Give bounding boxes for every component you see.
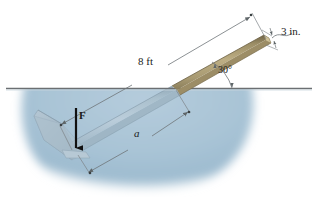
rod-wood-top	[172, 35, 269, 90]
label-force-F: F	[79, 110, 86, 121]
ext-line-8ft-upper	[252, 13, 266, 39]
thickness-arrow-upper	[270, 28, 272, 35]
label-length-8ft: 8 ft	[138, 56, 153, 67]
label-angle-30deg: 30°	[218, 65, 232, 75]
origin-dot-a-lower	[89, 172, 92, 175]
origin-dot-a-upper	[188, 111, 191, 114]
physics-diagram: 3 in. 8 ft 30° a F	[0, 0, 318, 197]
diagram-canvas	[0, 0, 318, 197]
origin-dot-8ft-lower	[60, 124, 63, 127]
thickness-arrow-lower	[274, 41, 276, 48]
label-submerged-length-a: a	[134, 128, 140, 139]
origin-dot-8ft-upper	[250, 14, 253, 17]
waterline	[6, 89, 312, 91]
rod-wood-top-edge	[172, 35, 264, 86]
label-thickness-3in: 3 in.	[281, 26, 301, 37]
